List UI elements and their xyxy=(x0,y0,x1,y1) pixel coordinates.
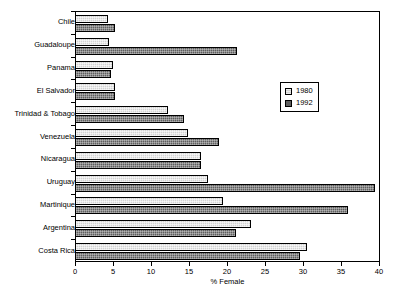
bar-venezuela-1980 xyxy=(76,129,188,137)
bar-el-salvador-1980 xyxy=(76,83,115,91)
x-axis-tick-label: 10 xyxy=(139,267,163,276)
bar-group xyxy=(76,80,379,103)
x-axis-tick-label: 15 xyxy=(177,267,201,276)
x-axis-tick xyxy=(113,262,114,266)
bar-group xyxy=(76,103,379,126)
bar-chart: ChileGuadaloupePanamaEl SalvadorTrinidad… xyxy=(0,0,396,289)
plot-frame xyxy=(75,11,380,262)
bar-group xyxy=(76,217,379,240)
y-axis-tick xyxy=(71,148,76,149)
y-axis-tick xyxy=(71,216,76,217)
x-axis-tick-label: 40 xyxy=(367,267,391,276)
bar-group xyxy=(76,12,379,35)
y-axis-tick xyxy=(71,11,76,12)
y-axis-tick xyxy=(71,79,76,80)
x-axis-tick-label: 35 xyxy=(329,267,353,276)
bar-group xyxy=(76,195,379,218)
x-axis-tick xyxy=(379,262,380,266)
x-axis-tick xyxy=(265,262,266,266)
x-axis-title: % Female xyxy=(0,277,396,286)
bar-chile-1992 xyxy=(76,24,115,32)
bar-guadaloupe-1980 xyxy=(76,38,109,46)
y-axis-tick xyxy=(71,194,76,195)
x-axis-tick-label: 30 xyxy=(291,267,315,276)
bar-group xyxy=(76,149,379,172)
y-axis-label-venezuela: Venezuela xyxy=(40,132,75,141)
bar-nicaragua-1980 xyxy=(76,152,201,160)
y-axis-label-chile: Chile xyxy=(58,17,75,26)
y-axis-tick xyxy=(71,57,76,58)
bar-nicaragua-1992 xyxy=(76,161,201,169)
bar-venezuela-1992 xyxy=(76,138,219,146)
y-axis-tick xyxy=(71,34,76,35)
bar-uruguay-1980 xyxy=(76,175,208,183)
chart-legend: 1980 1992 xyxy=(280,82,319,112)
legend-label-1992: 1992 xyxy=(296,99,313,107)
y-axis-label-trinidad-tobago: Trinidad & Tobago xyxy=(15,109,75,118)
y-axis-label-argentina: Argentina xyxy=(43,223,75,232)
x-axis-tick-label: 25 xyxy=(253,267,277,276)
y-axis-label-costa-rica: Costa Rica xyxy=(38,246,75,255)
bar-uruguay-1992 xyxy=(76,184,375,192)
bar-group xyxy=(76,58,379,81)
x-axis-tick-label: 20 xyxy=(215,267,239,276)
bar-argentina-1992 xyxy=(76,229,236,237)
bar-group xyxy=(76,172,379,195)
x-axis-tick-label: 5 xyxy=(101,267,125,276)
x-axis-tick xyxy=(227,262,228,266)
bar-group xyxy=(76,240,379,263)
legend-swatch-1992 xyxy=(285,100,292,107)
y-axis-label-nicaragua: Nicaragua xyxy=(41,154,75,163)
x-axis-tick xyxy=(189,262,190,266)
y-axis-tick xyxy=(71,125,76,126)
bar-martinique-1992 xyxy=(76,206,348,214)
legend-label-1980: 1980 xyxy=(296,87,313,95)
x-axis-tick xyxy=(303,262,304,266)
y-axis-tick xyxy=(71,239,76,240)
bar-panama-1980 xyxy=(76,61,113,69)
y-axis-tick xyxy=(71,102,76,103)
y-axis-label-uruguay: Uruguay xyxy=(47,177,75,186)
bar-argentina-1980 xyxy=(76,220,251,228)
legend-item-1992: 1992 xyxy=(285,98,313,108)
bar-martinique-1980 xyxy=(76,197,223,205)
bar-group xyxy=(76,126,379,149)
bar-trinidad-tobago-1992 xyxy=(76,115,184,123)
y-axis-label-el-salvador: El Salvador xyxy=(37,86,75,95)
legend-swatch-1980 xyxy=(285,88,292,95)
bar-costa-rica-1980 xyxy=(76,243,307,251)
x-axis-tick xyxy=(151,262,152,266)
y-axis-label-guadaloupe: Guadaloupe xyxy=(34,40,75,49)
bar-guadaloupe-1992 xyxy=(76,47,237,55)
bar-group xyxy=(76,35,379,58)
x-axis-tick xyxy=(75,262,76,266)
legend-item-1980: 1980 xyxy=(285,86,313,96)
x-axis-tick-label: 0 xyxy=(63,267,87,276)
y-axis-label-panama: Panama xyxy=(47,63,75,72)
bar-trinidad-tobago-1980 xyxy=(76,106,168,114)
bar-panama-1992 xyxy=(76,70,111,78)
plot-area xyxy=(76,12,379,261)
y-axis-label-martinique: Martinique xyxy=(40,200,75,209)
bar-costa-rica-1992 xyxy=(76,252,300,260)
y-axis-tick xyxy=(71,171,76,172)
bar-el-salvador-1992 xyxy=(76,92,115,100)
bar-chile-1980 xyxy=(76,15,108,23)
x-axis-tick xyxy=(341,262,342,266)
